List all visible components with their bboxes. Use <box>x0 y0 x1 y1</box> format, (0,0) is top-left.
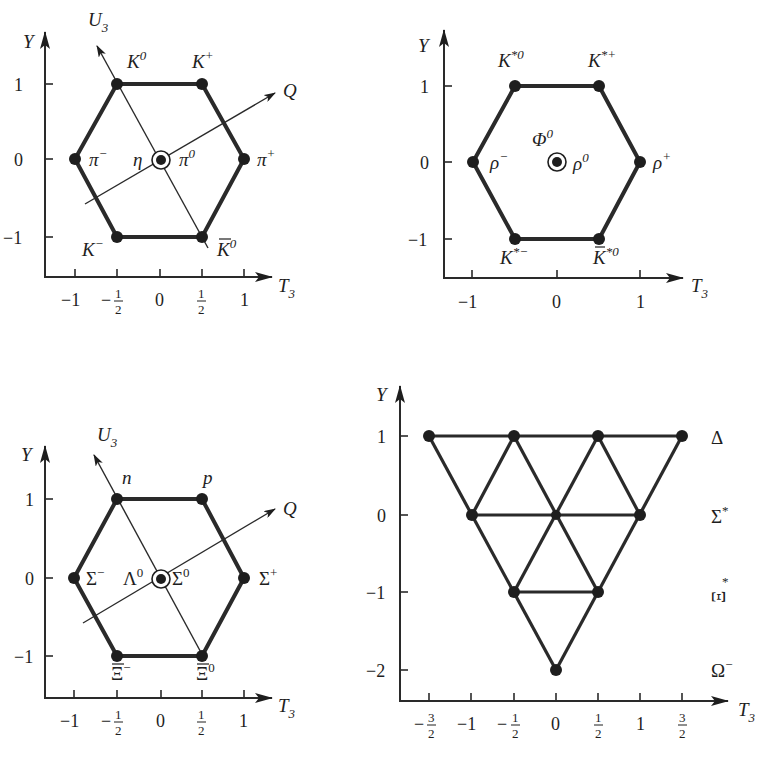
n-label: n <box>122 467 132 488</box>
x-tick-frac: 1 2 <box>511 710 520 741</box>
panel-pseudoscalar-octet: Y T3 U3 Q 1 0 −1 −1 − 1 2 0 1 2 1 K0 K+ … <box>3 9 297 317</box>
n-dot <box>111 493 123 505</box>
x-tick-frac: 1 2 <box>114 286 123 317</box>
sigmastar-dot <box>634 509 646 521</box>
rhominus-dot <box>467 156 479 168</box>
pi0-label: π0 <box>179 146 196 170</box>
lambda0-label: Λ0 <box>123 565 143 589</box>
kminus-label: K− <box>81 236 103 260</box>
q-axis-label: Q <box>283 498 297 519</box>
x-tick-label: − <box>497 714 507 734</box>
x-tick-label: 1 <box>636 714 645 734</box>
y-axis-label: Y <box>21 444 34 465</box>
phi0-label: Φ0 <box>532 126 553 150</box>
x-tick-label: −1 <box>60 711 79 731</box>
u3-axis <box>94 455 204 658</box>
u3-axis-label: U3 <box>97 424 118 450</box>
weight-diagrams-figure: Y T3 U3 Q 1 0 −1 −1 − 1 2 0 1 2 1 K0 K+ … <box>0 0 771 764</box>
xistar-dot <box>508 586 520 598</box>
t3-axis-label: T3 <box>691 275 709 301</box>
xi0-label: Ξ0 <box>196 660 215 684</box>
svg-text:2: 2 <box>115 302 122 317</box>
x-tick-frac: 1 2 <box>114 707 123 738</box>
rhoplus-dot <box>634 156 646 168</box>
rhoplus-label: ρ+ <box>652 149 671 173</box>
piminus-dot <box>69 153 81 165</box>
kstarplus-dot <box>593 80 605 92</box>
xi0-dot <box>196 650 208 662</box>
x-tick-label: 1 <box>636 292 645 312</box>
sigmaminus-label: Σ− <box>86 565 104 589</box>
xistar-row-label: Ξ <box>708 591 729 603</box>
panel-baryon-octet: Y T3 U3 Q 1 0 −1 −1 − 1 2 0 1 2 1 n p Σ−… <box>14 424 297 738</box>
xistar-star: * <box>722 574 729 589</box>
delta-dot <box>508 430 520 442</box>
svg-text:1: 1 <box>115 707 122 722</box>
y-tick-label: 1 <box>377 427 386 447</box>
panel-baryon-decuplet: Y T3 1 0 −1 −2 − 3 2 −1 − 1 2 0 1 2 1 3 … <box>366 384 756 741</box>
x-tick-frac: 1 2 <box>197 707 206 738</box>
svg-text:1: 1 <box>595 710 602 725</box>
ximinus-dot <box>111 650 123 662</box>
x-tick-label: − <box>101 711 111 731</box>
kminus-dot <box>111 231 123 243</box>
kplus-dot <box>196 78 208 90</box>
y-axis-label: Y <box>418 35 431 56</box>
x-tick-label: 1 <box>239 711 248 731</box>
t3-axis-label: T3 <box>278 275 296 301</box>
kstar0bar-dot <box>593 233 605 245</box>
q-axis <box>83 509 275 623</box>
y-tick-label: 1 <box>25 490 34 510</box>
axis-ticks <box>45 84 244 277</box>
x-tick-label: 0 <box>156 711 165 731</box>
rhominus-label: ρ− <box>489 149 508 173</box>
omega-dot <box>550 664 562 676</box>
svg-text:1: 1 <box>115 286 122 301</box>
kstar0-dot <box>509 80 521 92</box>
sigmaplus-dot <box>238 572 250 584</box>
rho0-phi0-dot <box>552 157 562 167</box>
svg-text:2: 2 <box>595 726 602 741</box>
y-axis-label: Y <box>23 31 36 52</box>
omega-row-label: Ω− <box>711 657 732 681</box>
svg-text:Ξ−: Ξ− <box>111 660 131 684</box>
piplus-dot <box>238 153 250 165</box>
k0bar-dot <box>196 231 208 243</box>
svg-text:Ξ0: Ξ0 <box>196 660 215 684</box>
decuplet-lattice <box>429 436 682 670</box>
sigmastar-dot <box>551 510 561 520</box>
piplus-label: π+ <box>257 146 275 170</box>
y-tick-label: 0 <box>25 569 34 589</box>
x-tick-frac: 3 2 <box>427 710 436 741</box>
kstarminus-label: K*− <box>499 244 528 268</box>
y-tick-label: −1 <box>3 228 22 248</box>
delta-dot <box>676 430 688 442</box>
xistar-dot <box>592 586 604 598</box>
x-tick-label: −1 <box>457 714 476 734</box>
y-tick-label: −1 <box>408 230 427 250</box>
delta-dot <box>423 430 435 442</box>
y-tick-label: 0 <box>377 506 386 526</box>
svg-text:3: 3 <box>679 710 686 725</box>
axis-ticks <box>400 436 682 701</box>
y-tick-label: −2 <box>366 661 385 681</box>
y-tick-label: 1 <box>420 77 429 97</box>
k0-dot <box>111 78 123 90</box>
q-axis-label: Q <box>283 80 297 101</box>
delta-dot <box>592 430 604 442</box>
kplus-label: K+ <box>191 48 213 72</box>
lambda0-sigma0-dot <box>156 574 166 584</box>
x-tick-frac: 1 2 <box>197 286 206 317</box>
sigmaminus-dot <box>68 572 80 584</box>
sigma0-label: Σ0 <box>172 565 190 589</box>
u3-axis-label: U3 <box>88 9 109 35</box>
x-tick-label: − <box>414 714 424 734</box>
y-tick-label: 1 <box>14 75 23 95</box>
p-label: p <box>201 467 213 488</box>
piminus-label: π− <box>89 146 107 170</box>
x-tick-label: −1 <box>458 292 477 312</box>
panel-vector-nonet: Y T3 1 0 −1 −1 0 1 K*0 K*+ Φ0 ρ− ρ0 ρ+ K… <box>408 30 709 312</box>
x-tick-label: 1 <box>240 290 249 310</box>
svg-text:3: 3 <box>428 710 435 725</box>
svg-text:1: 1 <box>198 707 205 722</box>
